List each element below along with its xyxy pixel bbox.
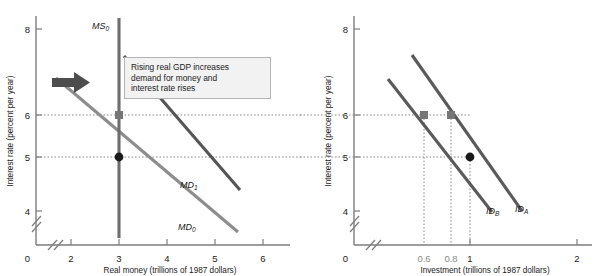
curve-label-md1: MD1 [180,180,198,191]
y-tick-label-5: 5 [343,152,348,163]
svg-text:MS0: MS0 [92,21,110,32]
label-md1-text: MD [180,180,194,190]
marker-id-a-at-6pct [447,111,455,119]
guide-lines [37,115,302,157]
y-tick-label-0: 0 [343,253,348,264]
label-id-b-sub: B [495,210,500,217]
money-market-svg: 8 6 5 4 0 2 3 4 5 6 Interest rate (perce… [0,0,302,276]
label-id-a-sub: A [523,208,529,215]
svg-text:MD1: MD1 [180,180,198,191]
x-axis-title: Investment (trillions of 1987 dollars) [420,266,550,275]
x-tick-label-1: 1 [467,253,472,264]
label-ms0-sub: 0 [106,25,110,32]
chart-panel-investment-demand: 8 6 5 4 0 0.6 0.8 1 2 Interest rate (per… [300,0,603,276]
x-axis-title: Real money (trillions of 1987 dollars) [104,266,237,275]
y-tick-label-8: 8 [25,24,30,35]
axes-group [36,16,290,245]
y-axis-title: Interest rate (percent per year) [6,75,15,186]
annotation-line-2: demand for money and [131,73,265,84]
svg-text:IDA: IDA [515,204,529,215]
label-md0-text: MD [178,222,192,232]
x-tick-label-3: 3 [116,253,121,264]
annotation-box-money-market: Rising real GDP increases demand for mon… [124,57,271,99]
x-tick-marks [71,239,263,245]
label-ms0-text: MS [92,21,106,31]
label-md0-sub: 0 [192,226,196,233]
y-tick-marks [354,29,360,211]
y-tick-label-4: 4 [343,206,348,217]
x-tick-label-2: 2 [68,253,73,264]
y-tick-label-6: 6 [343,110,348,121]
y-tick-label-0: 0 [25,253,30,264]
curve-label-id-a: IDA [515,204,529,215]
y-tick-label-4: 4 [25,206,30,217]
y-tick-label-5: 5 [25,152,30,163]
investment-demand-svg: 8 6 5 4 0 0.6 0.8 1 2 Interest rate (per… [300,0,603,276]
x-tick-label-4: 4 [164,253,169,264]
figure-root: 8 6 5 4 0 2 3 4 5 6 Interest rate (perce… [0,0,603,276]
x-tick-label-0-6: 0.6 [417,253,430,264]
annotation-line-3: interest rate rises [131,83,265,94]
equilibrium-marker-initial [115,153,124,162]
chart-panel-money-market: 8 6 5 4 0 2 3 4 5 6 Interest rate (perce… [0,0,302,276]
x-tick-label-5: 5 [212,253,217,264]
y-tick-label-6: 6 [25,110,30,121]
x-tick-marks [470,239,577,245]
equilibrium-marker-new [115,111,123,119]
axes-group-right [354,16,592,245]
x-tick-label-6: 6 [260,253,265,264]
annotation-line-1: Rising real GDP increases [131,62,265,73]
marker-common-equilibrium [466,153,475,162]
svg-text:IDB: IDB [486,206,500,217]
y-tick-marks [36,29,42,211]
y-tick-label-8: 8 [343,24,348,35]
label-md1-sub: 1 [194,184,198,191]
curve-label-ms0: MS0 [92,21,110,32]
curve-label-md0: MD0 [178,222,196,233]
marker-id-b-at-6pct [420,111,428,119]
y-axis-title: Interest rate (percent per year) [324,75,333,186]
svg-text:MD0: MD0 [178,222,196,233]
x-tick-label-0-8: 0.8 [444,253,457,264]
x-tick-label-2: 2 [574,253,579,264]
curve-label-id-b: IDB [486,206,500,217]
